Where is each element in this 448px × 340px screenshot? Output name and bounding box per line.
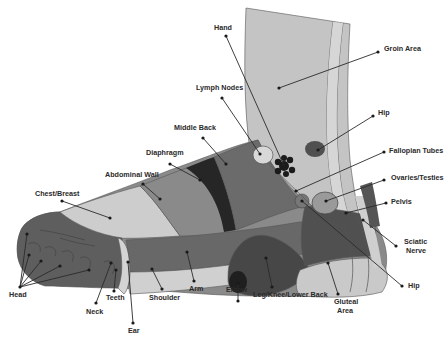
label-diaphragm: Diaphragm [146,148,184,157]
label-lymph-nodes: Lymph Nodes [196,83,243,92]
label-sciatic-2: Nerve [406,246,426,255]
label-hand: Hand [214,23,232,32]
label-middle-back: Middle Back [174,123,216,132]
label-teeth: Teeth [106,293,125,302]
label-sciatic-1: Sciatic [404,237,427,246]
label-groin-area: Groin Area [384,44,422,53]
label-head: Head [9,290,27,299]
label-pelvis: Pelvis [391,197,412,206]
label-chest-breast: Chest/Breast [35,189,80,198]
label-ear: Ear [128,326,140,335]
label-leg-knee-lower-back: Leg/Knee/Lower Back [253,290,328,299]
label-hip-lower: Hip [408,281,420,290]
label-ovaries-testies: Ovaries/Testies [391,173,444,182]
label-neck: Neck [86,307,103,316]
label-abdominal-wall: Abdominal Wall [105,170,159,179]
label-gluteal-2: Area [337,306,354,315]
label-arm: Arm [189,284,203,293]
reflexology-diagram: Hand Groin Area Lymph Nodes Hip Middle B… [0,0,448,340]
label-gluteal-1: Gluteal [334,297,358,306]
label-elbow: Elbow [226,285,248,294]
label-fallopian-tubes: Fallopian Tubes [389,146,443,155]
label-hip-upper: Hip [378,108,390,117]
label-shoulder: Shoulder [149,293,180,302]
